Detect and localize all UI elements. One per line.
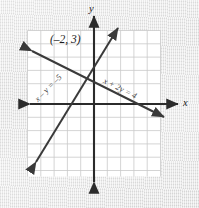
- x-axis-label: x: [183, 98, 188, 109]
- intersection-point-label: (–2, 3): [50, 34, 81, 46]
- figure-container: (–2, 3) x y x – y = –5 x + 2y = 4: [0, 0, 199, 208]
- coordinate-graph: [0, 0, 199, 208]
- y-axis-label: y: [89, 4, 94, 15]
